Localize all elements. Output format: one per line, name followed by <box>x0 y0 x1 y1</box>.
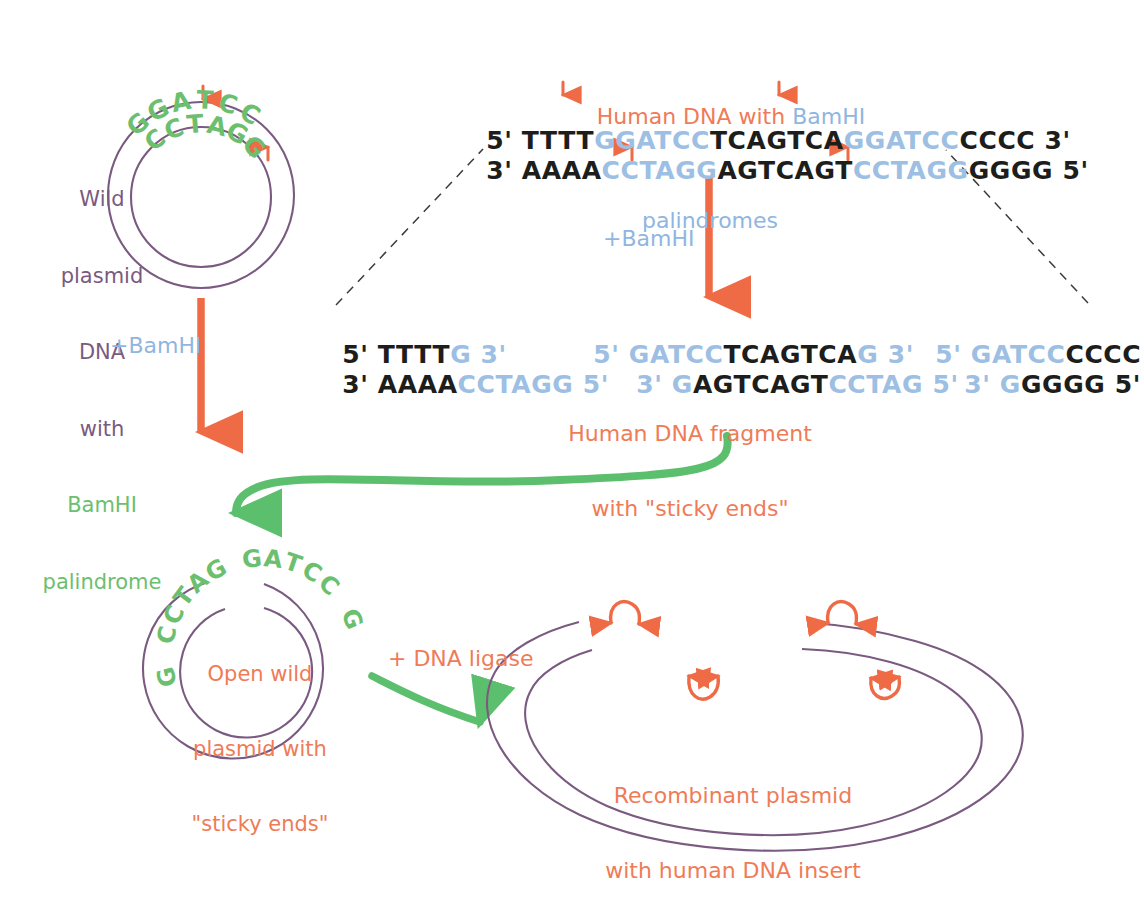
recombinant-plasmid-caption: Recombinant plasmid with human DNA inser… <box>578 733 888 898</box>
recombinant-bottom-strand: CCTAGGAGTCAGTCCTAGG <box>0 0 1144 898</box>
figure-canvas: Wild plasmid DNA with BamHI palindrome G… <box>0 0 1144 898</box>
recombinant-caption-line-1: Recombinant plasmid <box>578 783 888 808</box>
recombinant-caption-line-2: with human DNA insert <box>578 858 888 883</box>
